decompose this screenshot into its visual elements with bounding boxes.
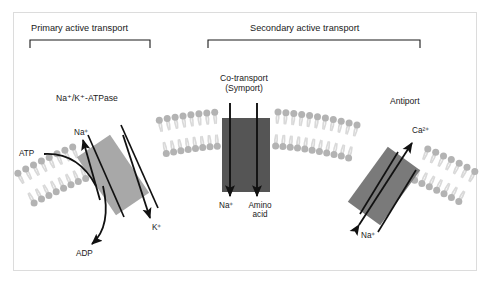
label-secondary-active-transport: Secondary active transport bbox=[250, 23, 359, 34]
lipid-inner bbox=[58, 178, 67, 192]
lipid-outer bbox=[275, 109, 282, 124]
lipid-outer bbox=[14, 170, 23, 183]
lipid-outer bbox=[314, 113, 321, 127]
lipid-inner bbox=[51, 182, 60, 196]
lipid-outer bbox=[195, 110, 202, 125]
label-atpase-sodium-out: Na⁺ bbox=[74, 128, 88, 137]
lipid-outer bbox=[211, 109, 218, 124]
lipid-inner bbox=[177, 140, 184, 154]
lipid-outer bbox=[423, 145, 431, 159]
lipid-outer bbox=[54, 150, 63, 164]
lipid-inner bbox=[66, 175, 75, 189]
label-antiport-sodium-in: Na⁺ bbox=[361, 231, 375, 240]
label-antiport-calcium-out: Ca²⁺ bbox=[412, 126, 429, 135]
label-amino-line1: Amino bbox=[243, 201, 277, 210]
lipid-inner bbox=[309, 139, 316, 153]
label-adp: ADP bbox=[76, 249, 93, 258]
lipid-outer bbox=[454, 160, 463, 174]
lipid-inner bbox=[433, 180, 442, 194]
lipid-outer bbox=[290, 110, 297, 125]
label-symport-sodium: Na⁺ bbox=[219, 201, 233, 210]
label-atp: ATP bbox=[19, 149, 34, 158]
lipid-inner bbox=[170, 141, 177, 155]
lipid-outer bbox=[469, 168, 478, 182]
protein-antiporter bbox=[348, 147, 420, 232]
lipid-inner bbox=[163, 143, 170, 157]
lipid-outer bbox=[203, 110, 210, 125]
lipid-inner bbox=[43, 185, 52, 199]
lipid-outer bbox=[187, 111, 194, 126]
lipid-outer bbox=[306, 112, 313, 126]
lipid-inner bbox=[316, 141, 323, 156]
lipid-outer bbox=[446, 156, 455, 170]
lipid-outer bbox=[172, 114, 179, 129]
label-symport-line2: (Symport) bbox=[205, 84, 283, 94]
lipid-outer bbox=[354, 121, 361, 135]
lipid-outer bbox=[322, 115, 329, 130]
lipid-inner bbox=[455, 191, 464, 205]
lipid-inner bbox=[272, 135, 279, 150]
diagram-canvas bbox=[0, 0, 493, 287]
lipid-outer bbox=[46, 154, 55, 168]
lipid-outer bbox=[30, 162, 39, 176]
lipid-outer bbox=[346, 120, 353, 134]
lipid-inner bbox=[28, 193, 37, 207]
label-symport-amino-acid: Amino acid bbox=[243, 201, 277, 220]
lipid-inner bbox=[448, 188, 457, 202]
lipid-outer bbox=[164, 115, 171, 130]
lipid-inner bbox=[301, 138, 308, 153]
lipid-inner bbox=[279, 136, 286, 151]
lipid-inner bbox=[287, 136, 294, 151]
lipid-outer bbox=[431, 149, 440, 163]
bracket-primary-active-transport bbox=[30, 40, 150, 48]
lipid-inner bbox=[345, 147, 352, 161]
lipid-inner bbox=[36, 189, 45, 203]
label-antiport: Antiport bbox=[390, 97, 420, 107]
lipid-inner bbox=[338, 145, 345, 159]
lipid-inner bbox=[418, 173, 427, 187]
lipid-outer bbox=[180, 112, 187, 127]
lipid-inner bbox=[294, 137, 301, 152]
label-amino-line2: acid bbox=[243, 210, 277, 219]
lipid-inner bbox=[331, 144, 338, 158]
lipid-outer bbox=[38, 158, 47, 172]
lipid-inner bbox=[185, 139, 192, 154]
lipid-outer bbox=[438, 152, 447, 166]
lipid-inner bbox=[426, 177, 435, 191]
lipid-inner bbox=[73, 171, 81, 185]
lipid-outer bbox=[69, 144, 77, 158]
lipid-inner bbox=[199, 137, 206, 152]
lipid-outer bbox=[282, 109, 289, 124]
transport-diagram-figure: Primary active transport Secondary activ… bbox=[0, 0, 493, 287]
lipid-outer bbox=[156, 117, 163, 131]
label-symport: Co-transport (Symport) bbox=[205, 74, 283, 94]
label-na-k-atpase: Na⁺/K⁺-ATPase bbox=[56, 94, 118, 104]
lipid-outer bbox=[461, 164, 470, 178]
lipid-inner bbox=[214, 135, 221, 150]
lipid-inner bbox=[207, 136, 214, 151]
label-atpase-potassium-in: K⁺ bbox=[152, 223, 161, 232]
lipid-outer bbox=[298, 111, 305, 126]
lipid-outer bbox=[330, 116, 337, 130]
label-primary-active-transport: Primary active transport bbox=[31, 23, 128, 34]
lipid-inner bbox=[441, 184, 450, 198]
lipid-inner bbox=[323, 142, 330, 156]
lipid-outer bbox=[22, 166, 31, 180]
bracket-secondary-active-transport bbox=[208, 40, 420, 48]
lipid-inner bbox=[192, 138, 199, 153]
lipid-outer bbox=[338, 118, 345, 132]
